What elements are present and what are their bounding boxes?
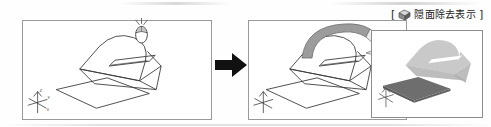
panel-shaded-after[interactable] <box>371 30 483 118</box>
panel-before-canvas: Z Y X <box>23 21 211 119</box>
axis-label-y: Y <box>47 95 50 100</box>
panel-wireframe-before[interactable]: Z Y X <box>22 20 212 120</box>
top-rule-right <box>330 2 480 5</box>
bottom-rule <box>0 124 491 126</box>
slot-rect-inner-wire-2 <box>321 61 357 65</box>
shaded-cube-icon <box>398 9 411 21</box>
axis-label-x: X <box>46 107 49 112</box>
figure-root: Z Y X <box>0 0 491 127</box>
caption-hidden-surface-removal: [ 隠面除去表示 ] <box>391 6 483 23</box>
black-step-arrow-icon <box>214 50 248 80</box>
caption-open-bracket: [ <box>391 9 395 20</box>
base-plate-wire <box>56 78 149 108</box>
slot-rect-inner-wire <box>111 61 147 65</box>
caption-close-bracket: ] <box>479 9 483 20</box>
coordinate-axis-icon <box>28 92 48 114</box>
axis-label-z: Z <box>40 88 43 93</box>
base-plate-shaded <box>383 77 450 103</box>
panel-after-canvas <box>372 31 482 117</box>
mouse-pointer-icon <box>136 18 148 43</box>
arch-top-face-wire <box>80 36 146 81</box>
caption-label: 隠面除去表示 <box>414 10 476 20</box>
coordinate-axis-icon-2 <box>254 92 274 114</box>
base-plate-wire-2 <box>266 78 359 108</box>
top-rule-left <box>120 2 230 5</box>
